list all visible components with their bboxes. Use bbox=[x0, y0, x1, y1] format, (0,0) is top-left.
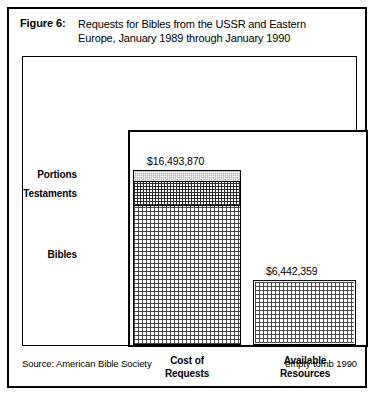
figure-title-block: Figure 6: Requests for Bibles from the U… bbox=[20, 15, 356, 51]
figure-title-text: Requests for Bibles from the USSR and Ea… bbox=[78, 17, 358, 45]
bar-available-resources[interactable] bbox=[253, 280, 356, 345]
chart-frame: Portions Testaments Bibles $16,493,870 $… bbox=[22, 56, 357, 346]
segment-label-testaments: Testaments bbox=[23, 188, 77, 199]
bar-segment-testaments bbox=[133, 182, 241, 206]
figure-title-line1: Requests for Bibles from the USSR and Ea… bbox=[78, 18, 306, 30]
bar-segment-bibles-resources bbox=[255, 282, 354, 343]
segment-label-bibles: Bibles bbox=[48, 249, 77, 260]
bar-segment-bibles bbox=[133, 206, 241, 345]
value-label-cost-of-requests: $16,493,870 bbox=[147, 155, 204, 167]
bar-cost-of-requests[interactable] bbox=[133, 170, 241, 345]
segment-label-portions: Portions bbox=[37, 169, 77, 180]
bar-segment-portions bbox=[133, 170, 241, 182]
figure-footer: Source: American Bible Society empty tom… bbox=[22, 358, 357, 374]
figure-number-label: Figure 6: bbox=[20, 17, 66, 29]
value-label-available-resources: $6,442,359 bbox=[266, 265, 318, 277]
figure-root: Figure 6: Requests for Bibles from the U… bbox=[0, 0, 376, 402]
footer-credit-text: empty tomb 1990 bbox=[285, 358, 357, 369]
footer-source-text: Source: American Bible Society bbox=[22, 358, 152, 369]
figure-title-line2: Europe, January 1989 through January 199… bbox=[78, 31, 358, 45]
